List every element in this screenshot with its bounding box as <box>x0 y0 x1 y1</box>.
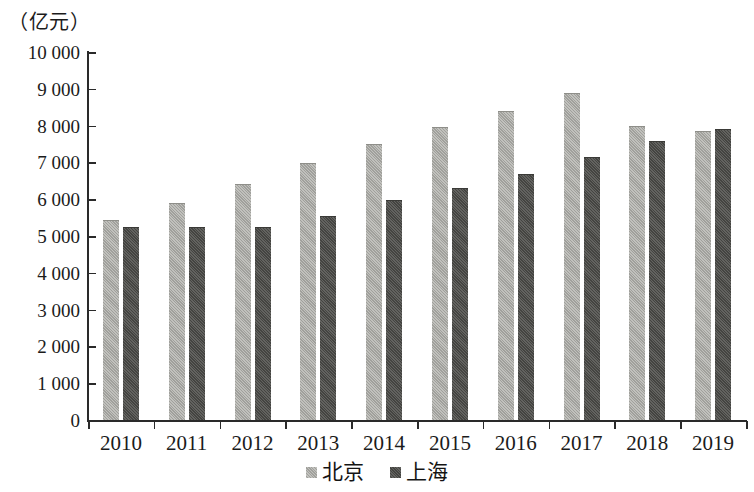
y-axis-tick-label: 1 000 <box>37 374 80 393</box>
x-axis-tick-label-2019: 2019 <box>680 431 746 456</box>
bar-上海-2019 <box>715 129 731 420</box>
bar-上海-2017 <box>584 157 600 420</box>
y-axis-tick-label: 0 <box>71 411 81 430</box>
bar-北京-2013 <box>300 163 316 420</box>
x-axis-tick-label-2015: 2015 <box>417 431 483 456</box>
bar-chart: （亿元） 01 0002 0003 0004 0005 0006 0007 00… <box>0 0 754 492</box>
x-axis-tick-mark <box>614 421 616 429</box>
bar-上海-2012 <box>255 227 271 420</box>
x-axis-tick-label-2013: 2013 <box>285 431 351 456</box>
bar-北京-2016 <box>498 111 514 420</box>
y-axis-tick-label: 5 000 <box>37 227 80 246</box>
x-axis-tick-mark <box>351 421 353 429</box>
plot-area <box>88 52 746 420</box>
x-axis-tick-label-2017: 2017 <box>549 431 615 456</box>
x-axis-tick-mark <box>88 421 90 429</box>
x-axis-tick-mark <box>746 421 748 429</box>
x-axis-tick-mark <box>285 421 287 429</box>
y-axis-tick-label: 10 000 <box>28 43 80 62</box>
x-axis-tick-label-2014: 2014 <box>351 431 417 456</box>
bar-上海-2018 <box>649 141 665 420</box>
x-axis-tick-label-2010: 2010 <box>88 431 154 456</box>
legend-item-shanghai[interactable]: 上海 <box>390 462 448 483</box>
bar-上海-2013 <box>320 216 336 421</box>
bar-北京-2010 <box>103 220 119 420</box>
y-axis-tick-label: 7 000 <box>37 153 80 172</box>
bar-上海-2011 <box>189 227 205 420</box>
bar-北京-2012 <box>235 184 251 420</box>
y-axis-tick-label: 4 000 <box>37 264 80 283</box>
x-axis-tick-mark <box>483 421 485 429</box>
bar-北京-2017 <box>564 93 580 420</box>
y-axis-tick-label: 2 000 <box>37 337 80 356</box>
bar-上海-2016 <box>518 174 534 420</box>
x-axis-tick-label-2018: 2018 <box>614 431 680 456</box>
x-axis-tick-mark <box>680 421 682 429</box>
bar-北京-2011 <box>169 203 185 420</box>
bar-北京-2019 <box>695 131 711 420</box>
x-axis-tick-mark <box>220 421 222 429</box>
legend-swatch-icon <box>306 467 317 478</box>
y-axis-tick-label: 6 000 <box>37 190 80 209</box>
x-axis-tick-mark <box>417 421 419 429</box>
x-axis-tick-mark <box>549 421 551 429</box>
legend-label: 上海 <box>406 462 448 483</box>
bar-北京-2014 <box>366 144 382 420</box>
chart-legend: 北京上海 <box>0 462 754 483</box>
y-axis-tick-labels: 01 0002 0003 0004 0005 0006 0007 0008 00… <box>0 0 80 492</box>
y-axis-tick-label: 8 000 <box>37 117 80 136</box>
legend-label: 北京 <box>322 462 364 483</box>
x-axis-tick-mark <box>154 421 156 429</box>
y-axis-tick-label: 9 000 <box>37 80 80 99</box>
bar-上海-2015 <box>452 188 468 420</box>
legend-item-beijing[interactable]: 北京 <box>306 462 364 483</box>
legend-swatch-icon <box>390 467 401 478</box>
y-axis-tick-label: 3 000 <box>37 301 80 320</box>
bar-北京-2015 <box>432 127 448 420</box>
bar-北京-2018 <box>629 126 645 420</box>
x-axis-tick-label-2011: 2011 <box>154 431 220 456</box>
x-axis-tick-label-2016: 2016 <box>483 431 549 456</box>
bar-上海-2010 <box>123 227 139 420</box>
x-axis-tick-label-2012: 2012 <box>220 431 286 456</box>
bar-上海-2014 <box>386 200 402 420</box>
